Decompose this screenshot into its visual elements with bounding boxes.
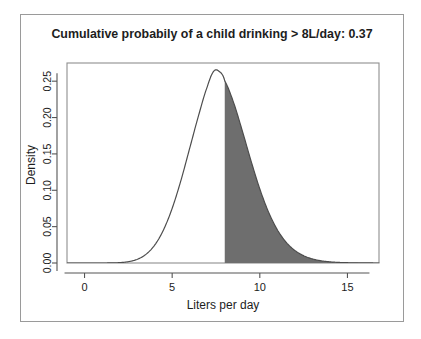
page-ghost-text xyxy=(0,0,421,12)
figure-root: Cumulative probabily of a child drinking… xyxy=(0,0,421,339)
y-axis: 0.000.050.100.150.200.25 xyxy=(41,71,57,273)
shaded-tail-area xyxy=(225,81,379,263)
x-tick-label: 10 xyxy=(254,281,266,293)
x-tick-label: 15 xyxy=(341,281,353,293)
y-tick-label: 0.15 xyxy=(41,144,53,165)
y-axis-label: Density xyxy=(24,145,38,185)
y-tick-label: 0.25 xyxy=(41,71,53,92)
y-tick-label: 0.00 xyxy=(41,253,53,274)
y-tick-label: 0.05 xyxy=(41,216,53,237)
plot-box xyxy=(67,63,379,263)
x-tick-label: 0 xyxy=(81,281,87,293)
density-chart: Cumulative probabily of a child drinking… xyxy=(21,15,403,321)
y-tick-label: 0.20 xyxy=(41,107,53,128)
figure-outer-frame: Cumulative probabily of a child drinking… xyxy=(20,14,404,322)
x-tick-label: 5 xyxy=(169,281,175,293)
chart-title: Cumulative probabily of a child drinking… xyxy=(51,27,372,41)
x-axis: 051015 xyxy=(65,273,370,293)
x-axis-label: Liters per day xyxy=(187,298,260,312)
density-curve xyxy=(67,70,379,263)
y-tick-label: 0.10 xyxy=(41,180,53,201)
